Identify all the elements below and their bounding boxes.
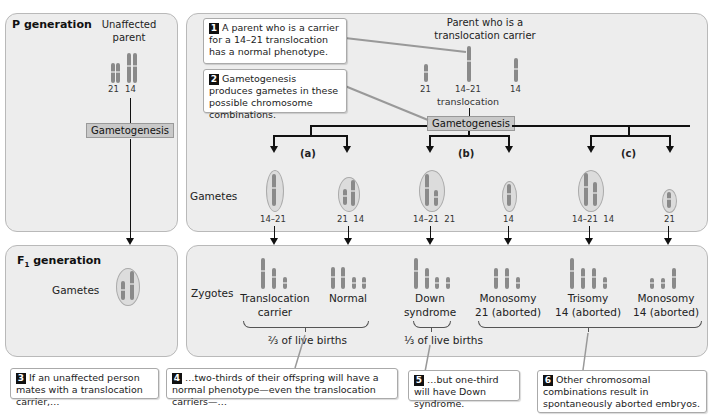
step-badge-1: 1 xyxy=(209,23,219,34)
callout-3: 3If an unaffected person mates with a tr… xyxy=(10,368,159,399)
step-badge-3: 3 xyxy=(16,373,26,384)
step-badge-4: 4 xyxy=(172,373,182,384)
callout-1-text: A parent who is a carrier for a 14–21 tr… xyxy=(209,22,339,57)
callout-4: 4…two-thirds of their offspring will hav… xyxy=(166,368,398,399)
step-badge-5: 5 xyxy=(414,375,424,386)
callout-5: 5…but one-third will have Down syndrome. xyxy=(408,370,520,401)
callout-pointers xyxy=(0,0,720,420)
step-badge-6: 6 xyxy=(543,375,553,386)
callout-2: 2Gametogenesis produces gametes in these… xyxy=(203,69,347,113)
callout-1: 1A parent who is a carrier for a 14–21 t… xyxy=(203,18,347,64)
callout-6-text: Other chromosomal combinations result in… xyxy=(543,374,700,409)
callout-2-text: Gametogenesis produces gametes in these … xyxy=(209,73,338,120)
callout-6: 6Other chromosomal combinations result i… xyxy=(537,370,707,413)
step-badge-2: 2 xyxy=(209,74,219,85)
